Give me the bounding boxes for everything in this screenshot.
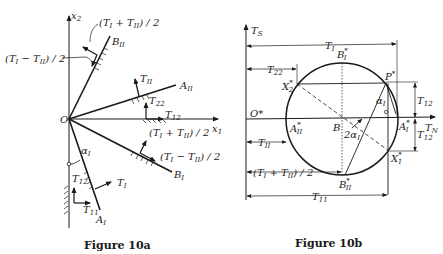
diagram-canvas: x2 x1 O (TI + TII) / 2 (TI − TII) / 2 BI… (0, 0, 443, 254)
figure-10a: x2 x1 O (TI + TII) / 2 (TI − TII) / 2 BI… (5, 10, 222, 252)
angle-marker (67, 162, 71, 166)
leader-diff-left (62, 57, 93, 64)
arrow-B-II-normal (83, 47, 97, 55)
label-B-I-star: B*I (336, 47, 348, 62)
label-A-I: AI (95, 214, 106, 227)
label-X1-star: X*1 (390, 151, 402, 166)
label-origin: O (60, 114, 68, 125)
label-T-12-lower: T12 (72, 173, 88, 186)
label-dim-T-22: T22 (267, 64, 283, 77)
line-B-II (69, 36, 110, 119)
hatch-x2 (64, 186, 68, 214)
label-dim-T-I: TI (325, 40, 335, 53)
label-diff-half-right: (TI − TII) / 2 (160, 151, 220, 164)
leader-sum-top (90, 24, 98, 42)
caption-figure-10a: Figure 10a (84, 239, 151, 252)
hatch-B-II (95, 48, 108, 70)
label-origin-star: O* (250, 108, 263, 119)
label-P-star: P* (384, 70, 396, 82)
arrow-2alpha (352, 119, 362, 128)
arrow-T-II (135, 79, 139, 96)
label-B-II-star: B*II (338, 177, 352, 192)
chord-X2-P (297, 83, 386, 84)
label-T-12-upper: T12 (165, 109, 181, 122)
label-T-I: TI (117, 177, 127, 190)
label-A-II: AII (179, 80, 193, 93)
label-alpha-I: αI (376, 95, 386, 108)
label-T-II: TII (140, 73, 152, 86)
angle-marker-P (384, 110, 387, 113)
label-x2: x2 (71, 10, 82, 23)
caption-figure-10b: Figure 10b (295, 237, 363, 250)
arrow-T-I (95, 182, 111, 189)
label-center-B: B (332, 122, 340, 133)
label-B-II: BII (111, 36, 125, 49)
label-dim-sum-half: (TI + TII) / 2 (253, 167, 313, 180)
mohr-circle (286, 63, 398, 175)
label-X2-star: X*2 (281, 79, 294, 94)
label-A-I-star: A*I (398, 119, 410, 134)
label-TS: TS (251, 25, 263, 38)
label-T-22: T22 (149, 95, 165, 108)
arrow-B-I-normal (140, 141, 146, 153)
label-dim-T-11: T11 (312, 191, 328, 204)
label-diff-half-left: (TI − TII) / 2 (5, 53, 65, 66)
label-dim-T-12-upper: T12 (417, 95, 433, 108)
dim-T-I (247, 44, 396, 46)
hatch-x1 (143, 120, 166, 123)
figure-10b: TS TN O* TI B*I T22 X*2 P* T12 αI A*II B… (246, 25, 439, 250)
label-sum-half-top: (TI + TII) / 2 (99, 17, 159, 30)
label-dim-T-II: TII (258, 137, 270, 150)
label-A-II-star: A*II (289, 121, 302, 136)
label-B-I: BI (173, 169, 184, 182)
label-2alpha-I: 2αI (343, 129, 360, 142)
label-x1: x1 (212, 123, 222, 136)
label-sum-half-right: (TI + TII) / 2 (149, 127, 209, 140)
